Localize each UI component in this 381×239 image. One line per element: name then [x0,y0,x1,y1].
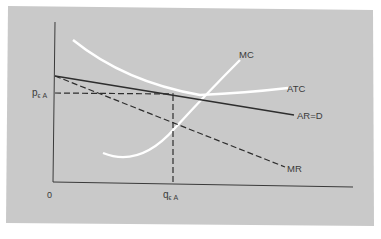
mr-label: MR [287,163,302,174]
monopoly-diagram: 0 pϵ A qϵ A MC ATC AR=D MR [0,0,381,239]
diagram-panel: 0 pϵ A qϵ A MC ATC AR=D MR [0,0,381,239]
price-subscript: ϵ A [38,92,48,99]
ar-label: AR=D [297,110,323,121]
quantity-subscript: ϵ A [169,194,179,201]
mc-label: MC [239,49,254,60]
origin-label: 0 [47,190,52,200]
atc-label: ATC [287,83,305,94]
